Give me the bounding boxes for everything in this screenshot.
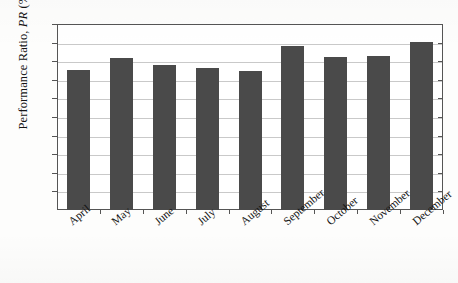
x-axis-tick-mark: [357, 210, 358, 214]
bar-august[interactable]: [239, 71, 262, 211]
x-axis-tick-mark: [443, 210, 444, 214]
performance-ratio-bar-chart: Performance Ratio, PR (%) 10203040506070…: [0, 0, 458, 283]
x-axis-tick-mark: [271, 210, 272, 214]
bar-july[interactable]: [196, 68, 219, 210]
x-axis-tick-mark: [314, 210, 315, 214]
x-axis-tick-mark: [229, 210, 230, 214]
x-axis-tick-mark: [186, 210, 187, 214]
x-axis-tick-mark: [100, 210, 101, 214]
y-axis-title: Performance Ratio, PR (%): [16, 0, 31, 155]
bar-november[interactable]: [367, 56, 390, 210]
y-axis-title-prefix: Performance Ratio,: [16, 27, 30, 129]
bar-december[interactable]: [410, 42, 433, 210]
y-axis-title-symbol: PR: [16, 12, 30, 27]
x-axis-tick-mark: [143, 210, 144, 214]
bar-april[interactable]: [67, 70, 90, 210]
bar-june[interactable]: [153, 65, 176, 210]
bar-september[interactable]: [281, 46, 304, 210]
x-axis-tick-mark: [400, 210, 401, 214]
y-axis-title-suffix: (%): [16, 0, 30, 12]
bar-may[interactable]: [110, 58, 133, 210]
bars-group: [57, 24, 443, 210]
bar-october[interactable]: [324, 57, 347, 210]
